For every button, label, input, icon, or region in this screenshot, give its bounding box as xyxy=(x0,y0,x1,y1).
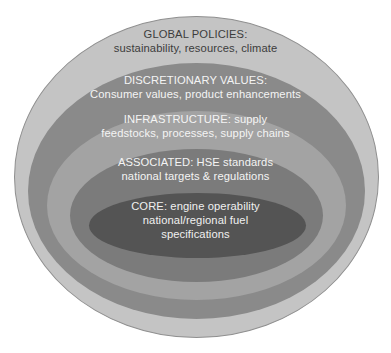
label-global-policies: GLOBAL POLICIES: sustainability, resourc… xyxy=(0,27,391,55)
layer-subtitle-2: specifications xyxy=(0,227,391,241)
layer-subtitle: sustainability, resources, climate xyxy=(0,41,391,55)
label-associated: ASSOCIATED: HSE standards national targe… xyxy=(0,155,391,183)
layer-title: ASSOCIATED: HSE standards xyxy=(0,155,391,169)
layer-title: INFRASTRUCTURE: supply xyxy=(0,112,391,126)
layer-title: CORE: engine operability xyxy=(0,199,391,213)
label-core: CORE: engine operability national/region… xyxy=(0,199,391,241)
layer-subtitle: feedstocks, processes, supply chains xyxy=(0,126,391,140)
layer-subtitle: national/regional fuel xyxy=(0,213,391,227)
layer-subtitle: Consumer values, product enhancements xyxy=(0,87,391,101)
label-infrastructure: INFRASTRUCTURE: supply feedstocks, proce… xyxy=(0,112,391,140)
label-discretionary-values: DISCRETIONARY VALUES: Consumer values, p… xyxy=(0,73,391,101)
nested-ellipse-diagram: GLOBAL POLICIES: sustainability, resourc… xyxy=(0,0,391,353)
layer-title: DISCRETIONARY VALUES: xyxy=(0,73,391,87)
layer-title: GLOBAL POLICIES: xyxy=(0,27,391,41)
layer-subtitle: national targets & regulations xyxy=(0,169,391,183)
